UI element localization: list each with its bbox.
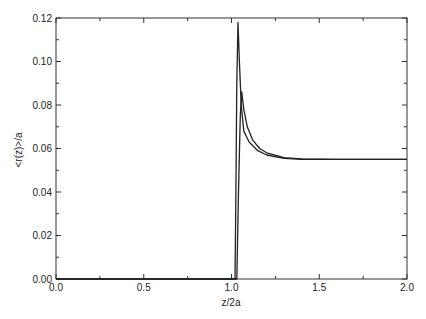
x-axis-label: z/2a [222, 297, 241, 308]
data-curves [56, 22, 407, 279]
y-tick-label: 0.12 [33, 13, 53, 24]
y-tick-label: 0.10 [33, 56, 53, 67]
x-tick-label: 1.0 [225, 282, 239, 293]
y-axis-label: <r(z)>/a [13, 132, 24, 167]
plot-frame [56, 18, 407, 279]
y-tick-label: 0.04 [33, 187, 53, 198]
series-line-2 [56, 92, 407, 279]
series-line-1 [56, 22, 407, 279]
axis-ticks: 0.00.51.01.52.00.000.020.040.060.080.100… [33, 13, 415, 294]
line-chart: 0.00.51.01.52.00.000.020.040.060.080.100… [0, 0, 426, 319]
x-tick-label: 2.0 [400, 282, 414, 293]
x-tick-label: 1.5 [312, 282, 326, 293]
y-tick-label: 0.06 [33, 143, 53, 154]
y-tick-label: 0.08 [33, 100, 53, 111]
y-tick-label: 0.02 [33, 230, 53, 241]
x-tick-label: 0.5 [137, 282, 151, 293]
y-tick-label: 0.00 [33, 274, 53, 285]
